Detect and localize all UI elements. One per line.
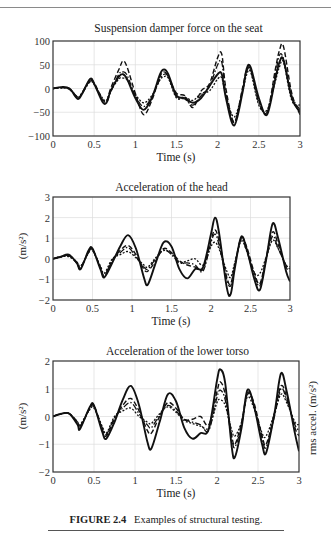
x-tick-label: 1.5: [169, 475, 182, 486]
chart-lower-torso-acceleration: Acceleration of the lower torso 00.511.5…: [0, 0, 331, 500]
figure-caption-text: Examples of structural testing.: [134, 514, 262, 525]
figure-caption-label: FIGURE 2.4: [70, 514, 127, 525]
x-axis-label: Time (s): [126, 487, 226, 499]
y-tick-label: −2: [39, 467, 50, 478]
y-tick-label: 1: [45, 384, 50, 395]
y-axis-label: (m/s²): [16, 396, 28, 436]
x-tick-label: 2.5: [251, 475, 264, 486]
x-tick-label: 0: [50, 475, 55, 486]
x-tick-label: 0.5: [87, 475, 100, 486]
y-axis-label-right: rms accel. (m/s²): [306, 370, 318, 466]
plot-area: 00.511.522.53210−1−2: [0, 0, 331, 500]
x-tick-label: 2: [214, 475, 219, 486]
y-tick-label: 0: [45, 412, 50, 423]
figure-caption: FIGURE 2.4 Examples of structural testin…: [48, 514, 284, 525]
x-tick-label: 1: [132, 475, 137, 486]
y-tick-label: −1: [39, 439, 50, 450]
x-tick-label: 3: [296, 475, 301, 486]
caption-rule: [48, 530, 284, 531]
y-tick-label: 2: [45, 356, 50, 367]
